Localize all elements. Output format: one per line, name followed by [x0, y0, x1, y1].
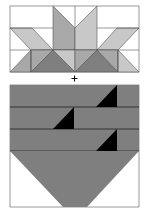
plus-operator: [72, 76, 78, 82]
stripe-2: [10, 107, 139, 129]
stripe-1: [10, 85, 139, 107]
top-block: [10, 6, 139, 72]
stripe-3: [10, 129, 139, 151]
bottom-block: [10, 85, 139, 207]
quilt-diagram: [0, 0, 150, 212]
